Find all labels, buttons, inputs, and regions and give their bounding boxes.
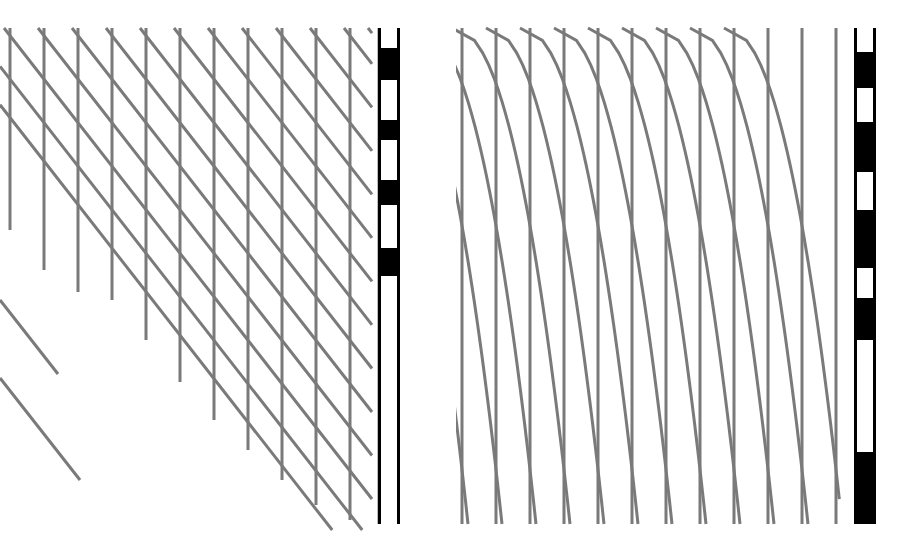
diagonal-line bbox=[344, 28, 372, 64]
scale-bar-segment bbox=[381, 248, 397, 276]
diagonal-line bbox=[72, 28, 372, 412]
diagonal-line bbox=[310, 28, 372, 107]
scale-bar-segment bbox=[857, 268, 873, 298]
scale-bar-frame-left bbox=[378, 28, 381, 524]
scale-bar-frame-right bbox=[397, 28, 400, 524]
right-panel-canvas bbox=[456, 0, 912, 551]
scale-bar-frame-right bbox=[873, 28, 876, 524]
scale-bar-segment bbox=[857, 88, 873, 122]
scale-bar-segment bbox=[857, 28, 873, 52]
diagonal-line bbox=[208, 28, 372, 238]
diagonal-line bbox=[38, 28, 372, 456]
left-scale-bar bbox=[378, 28, 400, 524]
scale-bar-frame-left bbox=[854, 28, 857, 524]
figure-root bbox=[0, 0, 912, 551]
right-curved-lines-group bbox=[456, 28, 839, 524]
scale-bar-segment bbox=[381, 80, 397, 120]
scale-bar-segment bbox=[857, 122, 873, 172]
scale-bar-segment bbox=[381, 120, 397, 140]
diagonal-line bbox=[0, 300, 58, 374]
scale-bar-segment bbox=[381, 205, 397, 248]
scale-bar-segment bbox=[857, 340, 873, 452]
scale-bar-segment bbox=[857, 298, 873, 340]
diagonal-line bbox=[242, 28, 372, 194]
scale-bar-segment bbox=[857, 172, 873, 210]
left-panel bbox=[0, 0, 456, 551]
scale-bar-segment bbox=[381, 48, 397, 80]
right-panel bbox=[456, 0, 912, 551]
scale-bar-segment bbox=[857, 52, 873, 88]
right-vertical-lines-group bbox=[462, 28, 836, 524]
scale-bar-segment bbox=[381, 180, 397, 205]
diagonal-line bbox=[0, 378, 80, 480]
diagonal-line bbox=[368, 28, 372, 33]
diagonal-line bbox=[140, 28, 372, 325]
scale-bar-segment bbox=[857, 210, 873, 268]
right-scale-bar bbox=[854, 28, 876, 524]
scale-bar-segment bbox=[857, 452, 873, 524]
scale-bar-segment bbox=[381, 28, 397, 48]
left-panel-canvas bbox=[0, 0, 456, 551]
scale-bar-segment bbox=[381, 276, 397, 524]
curved-line bbox=[456, 28, 570, 524]
left-vertical-lines-group bbox=[10, 28, 379, 524]
scale-bar-segment bbox=[381, 140, 397, 180]
